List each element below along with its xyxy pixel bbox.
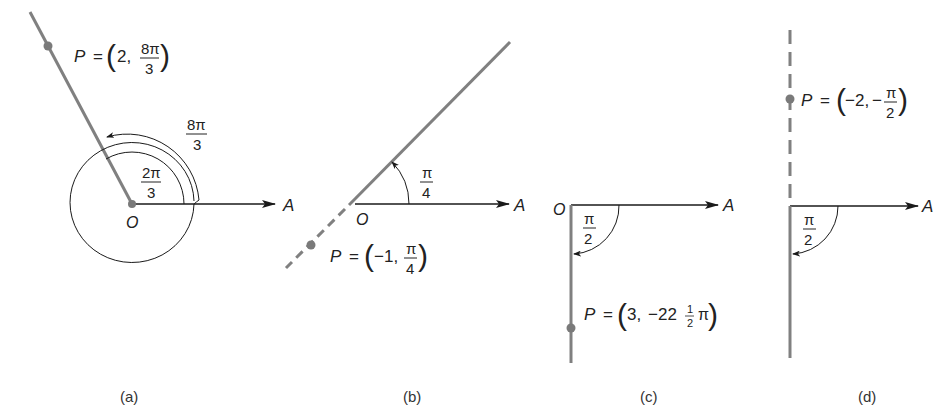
- angle-num-c: π: [584, 210, 594, 227]
- origin-label-a: O: [126, 214, 138, 231]
- terminal-ray-a: [30, 12, 132, 204]
- caption-d: (d): [858, 388, 876, 405]
- point-theta-den-b: 4: [406, 260, 414, 277]
- point-sign-d: −: [872, 91, 882, 110]
- point-eq-c: =: [603, 305, 613, 324]
- point-theta-den-a: 3: [145, 60, 153, 77]
- point-frac-den-c: 2: [687, 317, 693, 329]
- angle-num-a1: 2π: [142, 164, 161, 181]
- point-p-a: [44, 42, 53, 51]
- paren-close-d: ): [898, 83, 908, 116]
- point-frac-num-c: 1: [687, 303, 693, 315]
- paren-open-c: (: [617, 298, 627, 331]
- axis-label-d: A: [921, 197, 933, 216]
- paren-close-a: ): [160, 39, 170, 72]
- point-p-d: [786, 95, 795, 104]
- paren-open-b: (: [364, 239, 374, 272]
- angle-arc-pi-4: [392, 162, 409, 204]
- origin-point-a: [128, 200, 136, 208]
- point-name-a: P: [74, 47, 86, 66]
- angle-num-b: π: [422, 164, 432, 181]
- panel-a: O A P = ( 2, 8π 3 ) 2π 3 8π 3 (a): [30, 12, 294, 405]
- point-eq-a: =: [93, 47, 103, 66]
- angle-arc-pi-2-d: [793, 206, 838, 254]
- point-name-d: P: [801, 91, 813, 110]
- point-r-b: −1,: [374, 247, 398, 266]
- axis-label-b: A: [513, 196, 525, 215]
- angle-arc-pi-2-c: [574, 205, 619, 254]
- angle-den-c: 2: [584, 230, 592, 247]
- point-r-a: 2,: [117, 47, 131, 66]
- point-eq-b: =: [349, 247, 359, 266]
- origin-label-b: O: [356, 211, 368, 228]
- point-p-c: [567, 324, 576, 333]
- angle-num-a2: 8π: [187, 116, 206, 133]
- angle-den-a1: 3: [147, 184, 155, 201]
- point-r-c: 3,: [627, 305, 641, 324]
- caption-c: (c): [640, 388, 658, 405]
- point-theta-num-b: π: [406, 240, 416, 257]
- axis-label-a: A: [282, 196, 294, 215]
- paren-close-b: ): [418, 239, 428, 272]
- panel-b: O A π 4 P = ( −1, π 4 ) (b): [286, 42, 525, 405]
- point-name-b: P: [330, 247, 342, 266]
- point-theta-prefix-c: −22: [648, 305, 677, 324]
- axis-label-c: A: [722, 196, 734, 215]
- point-theta-den-d: 2: [886, 104, 894, 121]
- caption-b: (b): [403, 388, 421, 405]
- angle-den-d: 2: [804, 231, 812, 248]
- origin-label-c: O: [553, 201, 565, 218]
- panel-c: O A π 2 P = ( 3, −22 1 2 π ) (c): [553, 196, 734, 405]
- panel-d: A π 2 P = ( −2, − π 2 ) (d): [786, 30, 934, 405]
- polar-coordinates-figure: O A P = ( 2, 8π 3 ) 2π 3 8π 3 (a) O A π …: [0, 0, 945, 417]
- point-p-b: [307, 241, 316, 250]
- angle-den-b: 4: [422, 184, 430, 201]
- caption-a: (a): [120, 388, 138, 405]
- angle-num-d: π: [804, 211, 814, 228]
- point-eq-d: =: [820, 91, 830, 110]
- point-r-d: −2,: [845, 91, 869, 110]
- paren-close-c: ): [708, 298, 718, 331]
- paren-open-a: (: [106, 39, 116, 72]
- angle-den-a2: 3: [193, 136, 201, 153]
- point-theta-num-d: π: [886, 84, 896, 101]
- point-name-c: P: [584, 305, 596, 324]
- angle-arc-8pi-3: [70, 134, 199, 262]
- point-theta-num-a: 8π: [141, 40, 160, 57]
